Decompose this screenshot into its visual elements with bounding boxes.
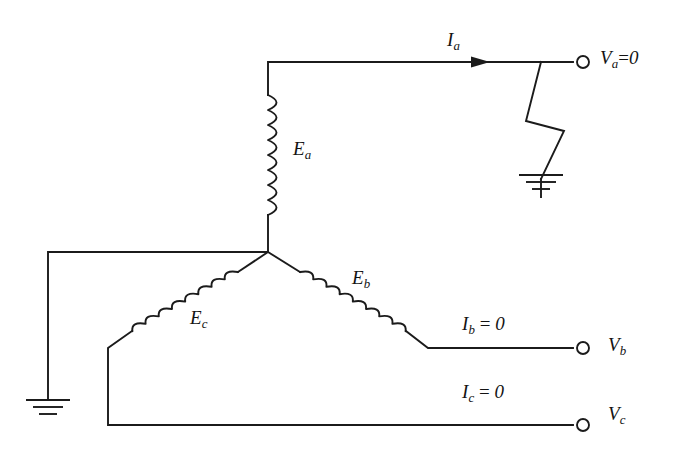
current-a-arrow-icon	[471, 57, 490, 68]
label-voltage-b: Vb	[608, 335, 626, 354]
phase-b-neutral-lead	[268, 252, 300, 272]
phase-a-winding-coil	[268, 95, 277, 215]
label-current-a: Ia	[447, 30, 460, 49]
label-emf-c: Ec	[190, 308, 208, 327]
ground-fault-zigzag-icon	[526, 62, 564, 179]
phase-c-neutral-lead	[238, 252, 268, 272]
circuit-schematic-svg	[0, 0, 676, 456]
label-emf-a: Ea	[293, 139, 311, 158]
label-voltage-c: Vc	[608, 404, 626, 423]
label-current-b: Ib = 0	[462, 314, 505, 333]
phase-c-terminal-conductor	[108, 331, 573, 425]
neutral-conductor	[48, 252, 268, 400]
terminal-b-circle[interactable]	[577, 342, 589, 354]
label-voltage-a: Va=0	[600, 48, 639, 67]
terminal-c-circle[interactable]	[577, 419, 589, 431]
circuit-diagram: Ia Va=0 Ea Eb Ec Ib = 0 Vb Ic = 0 Vc	[0, 0, 676, 456]
phase-c-winding-coil	[132, 271, 238, 331]
phase-a-conductor	[268, 62, 573, 95]
terminal-a-circle[interactable]	[577, 56, 589, 68]
label-current-c: Ic = 0	[462, 382, 504, 401]
label-emf-b: Eb	[352, 268, 370, 287]
